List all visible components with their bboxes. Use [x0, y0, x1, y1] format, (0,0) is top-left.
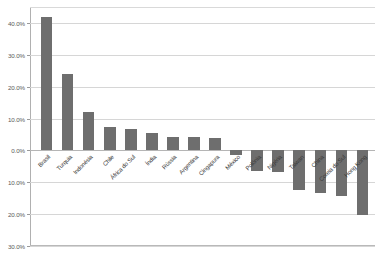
bar[interactable] [146, 133, 158, 151]
y-axis-label-2: 20.0% [0, 83, 25, 90]
bar[interactable] [167, 137, 179, 151]
bar[interactable] [83, 112, 95, 151]
gridline-neg20 [30, 214, 375, 215]
y-tick-mark [27, 23, 30, 24]
plot-area: BrasilTurquiaIndonésiaChileÁfrica do Sul… [30, 7, 375, 246]
category-label: Chile [101, 154, 114, 167]
y-axis-label-5: 10.0% [0, 179, 25, 186]
y-axis-label-7: 30.0% [0, 243, 25, 250]
y-tick-mark [27, 55, 30, 56]
y-axis-label-0: 40.0% [0, 19, 25, 26]
category-label: Turquia [55, 154, 73, 172]
y-tick-mark [27, 246, 30, 247]
y-tick-mark [27, 87, 30, 88]
plot-top-border [30, 7, 375, 8]
y-tick-mark [27, 214, 30, 215]
chart-title-strip [30, 0, 370, 6]
category-label: Indonésia [72, 154, 94, 176]
bar[interactable] [188, 137, 200, 150]
y-tick-mark [27, 119, 30, 120]
y-axis-line [30, 7, 31, 246]
category-label: México [224, 154, 241, 171]
y-tick-mark [27, 182, 30, 183]
bar[interactable] [125, 129, 137, 151]
gridline-neg30 [30, 246, 375, 247]
bar-chart: BrasilTurquiaIndonésiaChileÁfrica do Sul… [0, 0, 383, 256]
category-label: Argentina [178, 154, 199, 175]
y-tick-mark [27, 150, 30, 151]
category-label: Cingapura [197, 154, 220, 177]
category-label: Rússia [161, 154, 178, 171]
category-label: Brasil [37, 154, 51, 168]
bar[interactable] [209, 138, 221, 150]
category-label: Índia [144, 154, 157, 167]
y-axis-label-4: 0.0% [0, 147, 25, 154]
y-axis-label-6: 20.0% [0, 211, 25, 218]
y-axis-label-1: 30.0% [0, 51, 25, 58]
bar[interactable] [104, 127, 116, 151]
gridline-30 [30, 55, 375, 56]
gridline-20 [30, 87, 375, 88]
gridline-40 [30, 23, 375, 24]
bar[interactable] [41, 17, 53, 150]
gridline-10 [30, 119, 375, 120]
y-axis-label-3: 10.0% [0, 115, 25, 122]
bar[interactable] [62, 74, 74, 150]
